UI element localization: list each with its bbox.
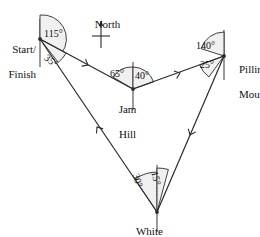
station-label-white-swan: White Swan [118, 212, 170, 237]
compass-label: North [74, 5, 130, 43]
station-label-jam-hill: Jam Hill [100, 90, 144, 153]
station-label-start-finish: Start/ Finish [0, 30, 36, 93]
angle-label-jam-hill-65: 65° [110, 68, 124, 79]
angle-label-pilling-mount-140: 140° [196, 40, 215, 51]
vertex-start-finish [38, 37, 42, 41]
diagram-canvas: North Start/ Finish Jam Hill Pilling Mou… [0, 0, 260, 237]
leg-pilling-to-swan [157, 56, 224, 212]
angle-label-jam-hill-40: 40° [135, 70, 149, 81]
station-label-pilling-mount: Pilling Mount [228, 50, 260, 113]
angle-label-start-finish-115: 115° [44, 28, 63, 39]
vertex-pilling-mount [222, 54, 226, 58]
angle-label-pilling-mount-25: 25° [200, 59, 214, 70]
